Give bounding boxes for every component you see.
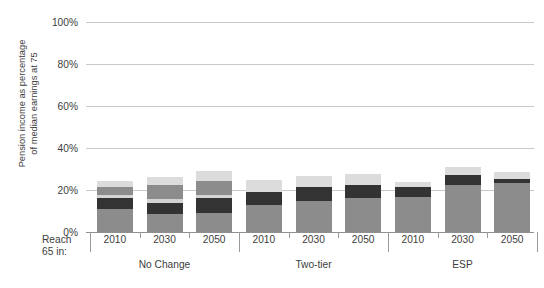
bar-segment-segment-2 bbox=[345, 185, 381, 199]
bar-segment-segment-1 bbox=[395, 197, 431, 232]
bar-two-tier-2030[interactable] bbox=[296, 176, 332, 232]
bar-two-tier-2050[interactable] bbox=[345, 174, 381, 232]
bar-segment-segment-5 bbox=[445, 167, 481, 175]
bar-segment-segment-1 bbox=[445, 185, 481, 232]
bar-segment-segment-2 bbox=[296, 187, 332, 201]
bar-segment-segment-2 bbox=[147, 203, 183, 215]
x-label-esp-2050: 2050 bbox=[482, 234, 542, 245]
group-label-no-change: No Change bbox=[90, 259, 240, 270]
plot-area: 0%20%40%60%80%100% bbox=[86, 22, 534, 232]
bar-segment-segment-4 bbox=[196, 181, 232, 196]
bar-segment-segment-1 bbox=[345, 198, 381, 232]
bar-segment-segment-1 bbox=[246, 205, 282, 232]
bar-esp-2050[interactable] bbox=[494, 172, 530, 232]
bar-two-tier-2010[interactable] bbox=[246, 180, 282, 233]
bar-segment-segment-1 bbox=[296, 201, 332, 233]
chart-container: Pension income as percentage of median e… bbox=[0, 0, 544, 288]
x-axis-line bbox=[86, 232, 534, 233]
y-tick-label-80: 80% bbox=[58, 59, 78, 70]
bar-segment-segment-5 bbox=[196, 171, 232, 180]
bar-segment-segment-2 bbox=[97, 198, 133, 209]
y-tick-label-20: 20% bbox=[58, 185, 78, 196]
bars-group bbox=[86, 22, 534, 232]
bar-segment-segment-4 bbox=[97, 187, 133, 195]
bar-segment-segment-4 bbox=[147, 185, 183, 200]
bar-segment-segment-2 bbox=[246, 192, 282, 205]
y-tick-label-100: 100% bbox=[52, 17, 78, 28]
bar-segment-segment-2 bbox=[196, 198, 232, 213]
bar-no-change-2030[interactable] bbox=[147, 177, 183, 232]
bar-segment-segment-1 bbox=[196, 213, 232, 232]
bar-no-change-2050[interactable] bbox=[196, 171, 232, 232]
bar-segment-segment-5 bbox=[246, 180, 282, 193]
bar-segment-segment-5 bbox=[345, 174, 381, 185]
bar-segment-segment-5 bbox=[494, 172, 530, 179]
y-axis-title: Pension income as percentage of median e… bbox=[17, 14, 40, 194]
bar-esp-2030[interactable] bbox=[445, 167, 481, 232]
bar-segment-segment-2 bbox=[395, 187, 431, 198]
bar-segment-segment-1 bbox=[97, 209, 133, 232]
bar-no-change-2010[interactable] bbox=[97, 181, 133, 232]
bar-segment-segment-2 bbox=[445, 175, 481, 184]
y-tick-label-40: 40% bbox=[58, 143, 78, 154]
group-label-esp: ESP bbox=[388, 259, 538, 270]
y-tick-label-60: 60% bbox=[58, 101, 78, 112]
reach-65-label: Reach 65 in: bbox=[42, 234, 86, 258]
bar-segment-segment-5 bbox=[147, 177, 183, 184]
bar-esp-2010[interactable] bbox=[395, 182, 431, 232]
bar-segment-segment-1 bbox=[494, 183, 530, 232]
group-label-two-tier: Two-tier bbox=[239, 259, 389, 270]
bar-segment-segment-5 bbox=[296, 176, 332, 187]
bar-segment-segment-1 bbox=[147, 214, 183, 232]
